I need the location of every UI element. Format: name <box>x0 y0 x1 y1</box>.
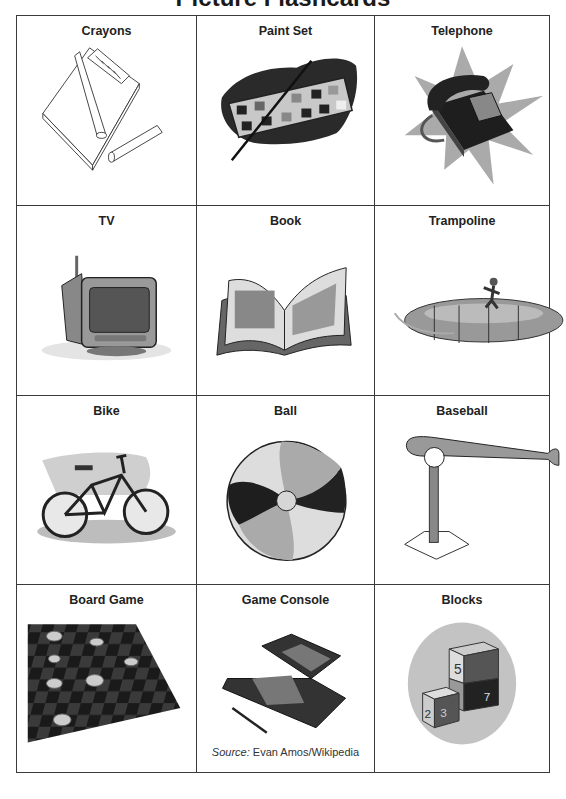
toy-blocks-icon: 5 7 2 3 <box>375 585 549 772</box>
card-trampoline: Trampoline <box>375 206 549 396</box>
svg-text:2: 2 <box>425 707 432 721</box>
handheld-console-icon <box>197 585 374 772</box>
book-icon <box>197 206 374 395</box>
checkerboard-icon <box>17 585 196 772</box>
card-bike: Bike <box>17 396 197 585</box>
card-crayons: Crayons <box>17 16 197 206</box>
card-book: Book <box>197 206 375 396</box>
telephone-icon <box>375 16 549 205</box>
card-paint-set: Paint Set <box>197 16 375 206</box>
page-title: Picture Flashcards <box>0 0 566 10</box>
paint-set-icon <box>197 16 374 205</box>
crayons-icon <box>17 16 196 205</box>
beach-ball-icon <box>197 396 374 584</box>
svg-text:3: 3 <box>440 706 447 720</box>
tv-icon <box>17 206 196 395</box>
card-baseball: Baseball <box>375 396 549 585</box>
image-source-credit: Source: Evan Amos/Wikipedia <box>197 746 374 758</box>
card-board-game: Board Game <box>17 585 197 772</box>
card-telephone: Telephone <box>375 16 549 206</box>
svg-text:5: 5 <box>454 662 462 677</box>
card-blocks: Blocks 5 7 2 3 <box>375 585 549 772</box>
flashcard-grid: Crayons Paint Set <box>16 15 550 773</box>
bike-icon <box>17 396 196 584</box>
baseball-tee-icon <box>375 396 549 584</box>
card-tv: TV <box>17 206 197 396</box>
card-game-console: Game Console Source: Evan Amos/Wikipedia <box>197 585 375 772</box>
svg-text:7: 7 <box>484 690 491 704</box>
card-ball: Ball <box>197 396 375 585</box>
trampoline-icon <box>375 206 549 395</box>
